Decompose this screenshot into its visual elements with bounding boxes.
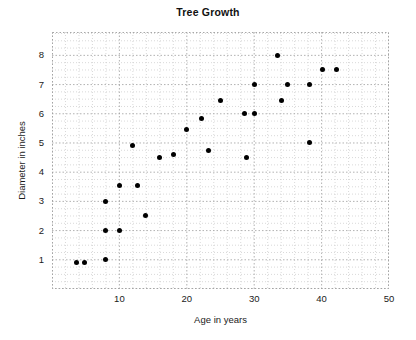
data-point [135, 183, 140, 188]
y-tick-label: 1 [22, 254, 44, 265]
y-tick-label: 7 [22, 79, 44, 90]
data-point [307, 82, 312, 87]
plot-area [52, 32, 389, 289]
x-axis-label: Age in years [52, 314, 389, 325]
x-tick-label: 40 [305, 293, 339, 304]
data-point [244, 155, 249, 160]
x-tick-label: 30 [237, 293, 271, 304]
chart-title: Tree Growth [0, 6, 416, 18]
data-point [199, 116, 204, 121]
data-point [242, 111, 247, 116]
data-point [117, 228, 122, 233]
y-tick-label: 2 [22, 225, 44, 236]
data-point [252, 111, 257, 116]
data-point [82, 260, 87, 265]
x-tick-label: 50 [372, 293, 406, 304]
data-point [206, 148, 211, 153]
scatter-chart-figure: Tree Growth 1020304050 12345678 Age in y… [0, 0, 416, 340]
data-point [171, 152, 176, 157]
data-point [275, 53, 280, 58]
data-point [279, 98, 284, 103]
y-axis-label: Diameter in inches [16, 96, 27, 226]
data-point [252, 82, 257, 87]
data-point [117, 183, 122, 188]
x-tick-label: 20 [170, 293, 204, 304]
y-tick-label: 8 [22, 49, 44, 60]
x-tick-label: 10 [102, 293, 136, 304]
